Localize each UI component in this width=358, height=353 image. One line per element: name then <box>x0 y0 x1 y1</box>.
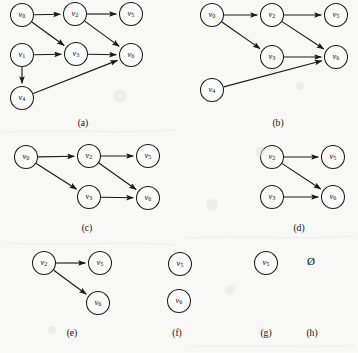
panel-a: v0v1v4v2v3v5v6(a) <box>11 3 143 130</box>
node-v5: v5 <box>322 146 345 169</box>
node-v5: v5 <box>137 145 160 168</box>
node-v2: v2 <box>261 4 284 27</box>
panel-caption-c: (c) <box>82 222 93 234</box>
edge-v2-to-v6 <box>99 163 136 190</box>
edge-v3-to-v6 <box>101 197 133 198</box>
panel-e: v2v5v6(e) <box>33 252 112 340</box>
panel-caption-e: (e) <box>67 327 78 339</box>
panel-d: v2v3v5v6(d) <box>261 146 345 235</box>
node-v3: v3 <box>261 46 284 69</box>
node-v2: v2 <box>33 252 56 275</box>
graph-figure: v0v1v4v2v3v5v6(a)v0v4v2v3v5v6(b)v0v2v3v5… <box>0 0 358 353</box>
panel-f: v5v6(f) <box>168 253 192 340</box>
panel-caption-b: (b) <box>272 117 283 129</box>
node-v6: v6 <box>87 292 110 315</box>
node-v5: v5 <box>255 252 278 275</box>
node-v4: v4 <box>11 87 34 110</box>
edge-v2-to-v6 <box>54 270 87 294</box>
node-v5: v5 <box>169 253 192 276</box>
node-v6: v6 <box>120 44 143 67</box>
edge-v2-to-v6 <box>282 22 324 49</box>
edge-v0-to-v3 <box>36 163 76 189</box>
edges-d <box>282 157 321 197</box>
edge-v0-to-v3 <box>222 22 260 49</box>
edge-v0-to-v2 <box>38 156 74 157</box>
node-v1: v1 <box>11 44 34 67</box>
node-v5: v5 <box>89 252 112 275</box>
node-v5: v5 <box>325 4 348 27</box>
edge-v2-to-v6 <box>282 164 321 189</box>
node-v3: v3 <box>261 186 284 209</box>
panel-caption-d: (d) <box>293 222 304 234</box>
node-v5: v5 <box>120 3 143 26</box>
node-v0: v0 <box>15 146 38 169</box>
panel-g: v5(g) <box>255 252 278 340</box>
node-v6: v6 <box>137 187 160 210</box>
node-v2: v2 <box>261 146 284 169</box>
panel-b: v0v4v2v3v5v6(b) <box>201 4 348 130</box>
node-v4: v4 <box>201 79 224 102</box>
node-v6: v6 <box>322 186 345 209</box>
panel-c: v0v2v3v5v6(c) <box>15 145 160 235</box>
panel-caption-a: (a) <box>78 117 89 129</box>
edge-v1-to-v3 <box>34 54 61 55</box>
node-v0: v0 <box>201 4 224 27</box>
empty-set-symbol: Ø <box>307 255 315 267</box>
node-v3: v3 <box>65 43 88 66</box>
node-v3: v3 <box>78 186 101 209</box>
panel-h: Ø(h) <box>306 255 317 340</box>
panel-caption-h: (h) <box>306 327 317 339</box>
node-v2: v2 <box>78 145 101 168</box>
edges-e <box>54 263 87 294</box>
edge-v3-to-v6 <box>88 54 116 55</box>
panel-caption-g: (g) <box>260 327 271 339</box>
node-v0: v0 <box>11 4 34 27</box>
panel-caption-f: (f) <box>172 327 182 339</box>
edge-v2-to-v6 <box>85 21 119 46</box>
node-v2: v2 <box>64 3 87 26</box>
node-v6: v6 <box>168 290 191 313</box>
figure-canvas: v0v1v4v2v3v5v6(a)v0v4v2v3v5v6(b)v0v2v3v5… <box>0 0 358 353</box>
node-v6: v6 <box>325 46 348 69</box>
edge-v0-to-v3 <box>32 22 64 45</box>
panels-group: v0v1v4v2v3v5v6(a)v0v4v2v3v5v6(b)v0v2v3v5… <box>11 3 348 340</box>
